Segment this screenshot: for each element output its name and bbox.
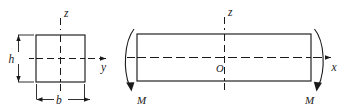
- cross-section-b-label: b: [56, 94, 62, 106]
- h-arrowhead-bottom: [16, 76, 20, 82]
- b-arrowhead-left: [37, 97, 43, 101]
- moment-arrowhead-left: [126, 82, 134, 91]
- cross-section-h-label: h: [9, 53, 15, 65]
- h-arrowhead-top: [16, 35, 20, 41]
- beam-group: z O x M M: [125, 6, 337, 106]
- cross-section-group: z h b y: [9, 7, 108, 106]
- beam-origin-label: O: [216, 63, 224, 74]
- moment-arrowhead-right: [314, 82, 322, 92]
- cross-section-y-label: y: [100, 61, 107, 74]
- cross-section-z-label: z: [63, 7, 69, 19]
- beam-bending-figure: z h b y z O: [0, 0, 352, 111]
- beam-x-label: x: [331, 61, 338, 73]
- figure-canvas: z h b y z O: [0, 0, 352, 111]
- beam-z-label: z: [227, 6, 233, 18]
- moment-label-left: M: [136, 94, 147, 106]
- moment-label-right: M: [304, 94, 315, 106]
- x-axis-arrowhead: [325, 55, 331, 59]
- b-arrowhead-right: [84, 97, 90, 101]
